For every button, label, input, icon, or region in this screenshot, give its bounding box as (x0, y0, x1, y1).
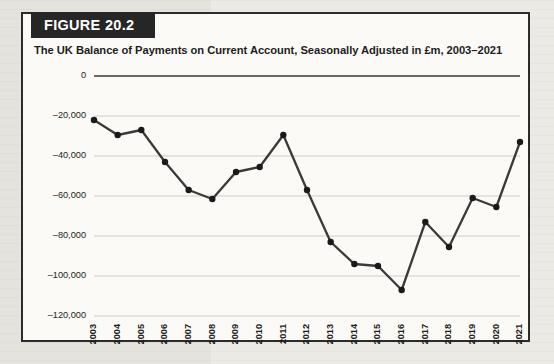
data-point (446, 244, 452, 250)
y-axis-tick-label: –80,000 (53, 230, 86, 240)
data-point (280, 132, 286, 138)
x-axis-tick-label: 2005 (136, 324, 146, 344)
data-point (422, 219, 428, 225)
data-point (351, 261, 357, 267)
x-axis-tick-label: 2012 (301, 324, 311, 344)
x-axis-tick-label: 2011 (278, 324, 288, 344)
data-point (114, 132, 120, 138)
x-axis-tick-label: 2021 (514, 324, 524, 344)
x-axis-tick-label: 2019 (467, 324, 477, 344)
x-axis-tick-label: 2016 (396, 324, 406, 344)
data-point (375, 263, 381, 269)
data-point (398, 287, 404, 293)
x-axis-tick-label: 2017 (420, 324, 430, 344)
x-axis-tick-label: 2006 (159, 324, 169, 344)
data-point (233, 169, 239, 175)
data-point (469, 195, 475, 201)
plot-area: 0–20,000–40,000–60,000–80,000–100,000–12… (23, 14, 532, 344)
x-axis-tick-label: 2018 (443, 324, 453, 344)
line-chart-svg: 0–20,000–40,000–60,000–80,000–100,000–12… (23, 14, 532, 344)
data-point (327, 239, 333, 245)
y-axis-tick-label: 0 (81, 70, 86, 80)
series-points-group (91, 117, 523, 293)
y-axis-tick-label: –60,000 (53, 190, 86, 200)
data-point (185, 187, 191, 193)
x-axis-tick-label: 2004 (112, 323, 122, 344)
data-point (517, 139, 523, 145)
gridlines-group (94, 76, 520, 316)
figure-container: FIGURE 20.2 The UK Balance of Payments o… (21, 12, 530, 342)
data-point (493, 204, 499, 210)
series-line-path (94, 120, 520, 290)
y-axis-labels-group: 0–20,000–40,000–60,000–80,000–100,000–12… (48, 70, 86, 320)
data-point (162, 159, 168, 165)
x-axis-tick-label: 2013 (325, 324, 335, 344)
page-root: FIGURE 20.2 The UK Balance of Payments o… (0, 0, 554, 364)
x-axis-tick-label: 2010 (254, 324, 264, 344)
data-point (91, 117, 97, 123)
y-axis-tick-label: –120,000 (48, 310, 86, 320)
x-axis-tick-label: 2015 (372, 324, 382, 344)
x-axis-tick-label: 2003 (88, 324, 98, 344)
data-point (209, 196, 215, 202)
x-axis-labels-group: 2003200420052006200720082009201020112012… (88, 323, 524, 344)
x-axis-tick-label: 2020 (491, 324, 501, 344)
x-axis-tick-label: 2008 (207, 324, 217, 344)
x-axis-tick-label: 2014 (349, 323, 359, 344)
data-point (304, 187, 310, 193)
x-axis-tick-label: 2009 (230, 324, 240, 344)
y-axis-tick-label: –100,000 (48, 270, 86, 280)
data-point (138, 127, 144, 133)
y-axis-tick-label: –40,000 (53, 150, 86, 160)
data-point (256, 164, 262, 170)
y-axis-tick-label: –20,000 (53, 110, 86, 120)
x-axis-tick-label: 2007 (183, 324, 193, 344)
